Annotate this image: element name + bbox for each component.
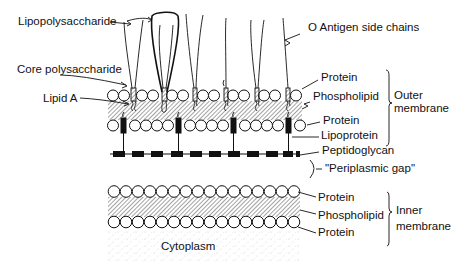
o-antigen-chains (124, 12, 288, 92)
inner-bottom-lipid-heads (108, 216, 300, 228)
label-outer-protein-top: Protein (321, 71, 357, 84)
label-core-polysaccharide: Core polysaccharide (17, 63, 122, 76)
label-inner-membrane-1: Inner (396, 204, 422, 217)
label-cytoplasm: Cytoplasm (161, 240, 215, 253)
label-inner-phospholipid: Phospholipid (318, 209, 384, 222)
label-outer-phospholipid: Phospholipid (313, 90, 379, 103)
label-outer-membrane-2: membrane (394, 102, 449, 115)
label-peptidoglycan: Peptidoglycan (322, 144, 394, 157)
outer-phospholipid-band (108, 101, 302, 120)
outer-bottom-lipid-heads (108, 120, 306, 131)
label-lipopolysaccharide: Lipopolysaccharide (18, 15, 116, 28)
inner-top-lipid-heads (108, 186, 300, 198)
peptidoglycan-layer (110, 151, 300, 157)
label-outer-protein-bottom: Protein (323, 114, 359, 127)
label-inner-membrane-2: membrane (396, 220, 451, 233)
outer-membrane (108, 12, 306, 151)
label-lipid-a: Lipid A (43, 92, 78, 105)
label-inner-protein-bottom: Protein (318, 226, 354, 239)
label-outer-membrane-1: Outer (394, 89, 423, 102)
label-periplasmic-gap: "Periplasmic gap" (325, 162, 415, 175)
label-inner-protein-top: Protein (318, 191, 354, 204)
label-lipoprotein: Lipoprotein (321, 129, 378, 142)
outer-top-lipid-heads (108, 90, 302, 101)
label-o-antigen: O Antigen side chains (308, 21, 419, 34)
